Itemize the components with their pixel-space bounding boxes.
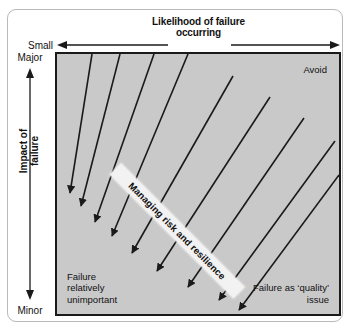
plot-area: Managing risk and resilience Avoid Failu…	[55, 52, 341, 316]
arrow-6	[157, 97, 270, 271]
quadrant-label-bottom-left: Failure relatively unimportant	[67, 271, 117, 306]
left-axis-title: Impact of failure	[18, 91, 40, 211]
arrow-8	[219, 141, 335, 300]
arrow-1	[70, 54, 92, 193]
top-axis-title-line2: occurring	[55, 27, 342, 38]
quadrant-label-top-right: Avoid	[303, 64, 327, 76]
quadrant-label-bottom-right: Failure as ‘quality’ issue	[253, 282, 329, 305]
left-axis-bottom-label: Minor	[7, 305, 53, 316]
top-axis: Likelihood of failure occurring Small Gr…	[55, 16, 342, 51]
left-axis-top-label: Major	[7, 52, 53, 63]
arrow-2	[81, 54, 120, 206]
top-axis-title: Likelihood of failure occurring	[55, 16, 342, 38]
top-axis-double-arrow-icon	[55, 38, 342, 52]
risk-matrix-figure: Likelihood of failure occurring Small Gr…	[0, 0, 354, 332]
left-axis-title-line1: Impact of	[18, 129, 29, 173]
left-axis-title-line2: failure	[29, 91, 40, 211]
top-axis-left-label: Small	[28, 40, 53, 51]
top-axis-title-line1: Likelihood of failure	[152, 16, 245, 27]
left-axis: Major Minor Impact of failure	[7, 52, 55, 316]
